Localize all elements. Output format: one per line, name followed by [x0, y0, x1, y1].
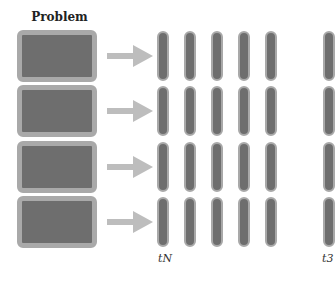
time-slice-bar [323, 197, 335, 247]
time-slice-bar [157, 197, 169, 247]
time-slice-bar [265, 86, 277, 136]
time-slice-bar [211, 142, 223, 192]
time-slice-bar [211, 31, 223, 81]
time-slice-bar [211, 86, 223, 136]
time-slice-bar [265, 142, 277, 192]
label-t3: t3 [322, 252, 333, 265]
problem-block-2 [17, 85, 97, 137]
time-slice-bar [323, 86, 335, 136]
arrow-right-icon [107, 44, 153, 68]
problem-block-1 [17, 30, 97, 82]
time-slice-bar [184, 31, 196, 81]
problem-block-3 [17, 141, 97, 193]
time-slice-bar [211, 197, 223, 247]
problem-title: Problem [17, 10, 102, 24]
problem-block-4 [17, 196, 97, 248]
time-slice-bar [184, 86, 196, 136]
arrow-right-icon [107, 210, 153, 234]
label-tn: tN [158, 252, 172, 265]
time-slice-bar [238, 197, 250, 247]
time-slice-bar [323, 31, 335, 81]
arrow-right-icon [107, 155, 153, 179]
time-slice-bar [184, 197, 196, 247]
time-slice-bar [238, 142, 250, 192]
time-slice-bar [157, 31, 169, 81]
time-slice-bar [323, 142, 335, 192]
time-slice-bar [238, 31, 250, 81]
time-slice-bar [265, 197, 277, 247]
time-slice-bar [184, 142, 196, 192]
time-slice-bar [238, 86, 250, 136]
time-slice-bar [157, 142, 169, 192]
arrow-right-icon [107, 99, 153, 123]
time-slice-bar [265, 31, 277, 81]
time-slice-bar [157, 86, 169, 136]
